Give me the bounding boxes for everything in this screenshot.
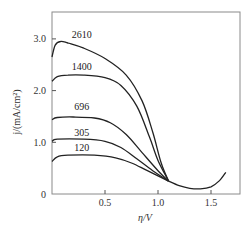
curve-label: 2610 [72,29,92,40]
axis-ticks: 0.51.01.501.02.03.0 [34,33,218,208]
curve-common-tail [169,172,226,189]
curve-label: 1400 [72,61,92,72]
x-axis-label: η/V [138,212,154,223]
y-tick-label: 2.0 [34,85,47,96]
y-tick-label: 1.0 [34,137,47,148]
y-tick-label: 0 [41,189,46,200]
y-axis-label: j/(mA/cm²) [11,89,23,135]
x-tick-label: 1.5 [205,197,218,208]
curve-305 [52,139,169,181]
curve-label: 120 [74,142,89,153]
y-tick-label: 3.0 [34,33,47,44]
curve-label: 305 [74,127,89,138]
x-tick-label: 0.5 [99,197,112,208]
x-tick-label: 1.0 [152,197,165,208]
curve-120 [52,155,169,181]
curve-label: 696 [74,101,89,112]
chart: 0.51.01.501.02.03.0 26101400696305120 η/… [0,0,250,232]
curve-2610 [52,41,169,181]
